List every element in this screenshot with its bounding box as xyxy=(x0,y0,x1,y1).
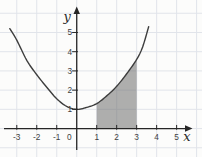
x-axis-label: x xyxy=(183,129,191,144)
origin-label: 0 xyxy=(67,132,72,142)
y-tick-label: 3 xyxy=(68,66,73,76)
y-tick-label: 5 xyxy=(68,27,73,37)
graph-canvas: -3-2-112345123450xy xyxy=(0,0,202,157)
x-tick-label: 5 xyxy=(174,132,179,142)
x-tick-label: 3 xyxy=(134,132,139,142)
x-tick-label: 1 xyxy=(94,132,99,142)
x-tick-label: 4 xyxy=(154,132,159,142)
x-tick-label: -3 xyxy=(13,132,21,142)
y-tick-label: 1 xyxy=(68,104,73,114)
y-axis-label: y xyxy=(63,9,72,24)
y-tick-label: 2 xyxy=(68,85,73,95)
y-tick-label: 4 xyxy=(68,47,73,57)
x-tick-label: 2 xyxy=(114,132,119,142)
plot-background xyxy=(0,0,202,157)
graph-figure: -3-2-112345123450xy xyxy=(0,0,202,157)
x-tick-label: -1 xyxy=(53,132,61,142)
x-tick-label: -2 xyxy=(33,132,41,142)
